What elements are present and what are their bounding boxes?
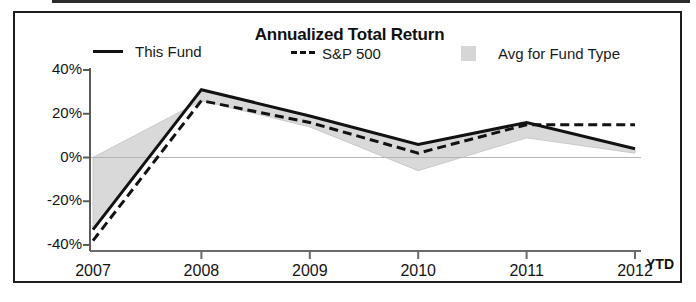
chart-plot-svg: [15, 13, 684, 285]
chart-screenshot: Annualized Total Return This Fund S&P 50…: [0, 0, 696, 302]
y-axis-tick-label: 20%: [20, 104, 82, 121]
scan-artifact-line: [52, 0, 696, 3]
x-axis-tick-label: 2011: [492, 262, 562, 280]
y-axis-tick-label: -40%: [20, 235, 82, 252]
avg-fund-type-area: [93, 90, 635, 230]
y-axis-tick-label: 40%: [20, 60, 82, 77]
x-axis-tick-label: 2010: [383, 262, 453, 280]
x-axis-tick-label: 2009: [275, 262, 345, 280]
x-axis-tick-label: 2007: [58, 262, 128, 280]
chart-figure-frame: Annualized Total Return This Fund S&P 50…: [13, 11, 682, 283]
scan-artifact-edge: [690, 0, 696, 300]
plot-area: 40%20%0%-20%-40% 20072008200920102011201…: [15, 13, 684, 285]
y-axis-tick-label: 0%: [20, 148, 82, 165]
series-line-this-fund: [93, 90, 635, 230]
x-axis-ytd-label: YTD: [646, 256, 674, 272]
y-axis-tick-label: -20%: [20, 191, 82, 208]
x-axis-tick-label: 2008: [166, 262, 236, 280]
